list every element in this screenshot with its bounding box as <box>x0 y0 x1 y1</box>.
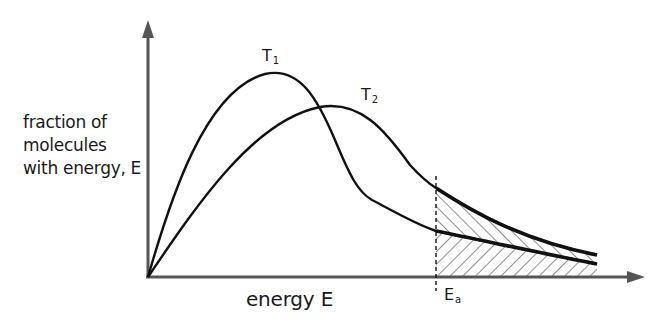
x-axis-label: energy E <box>246 287 333 311</box>
activation-energy-label-sub: a <box>455 294 461 305</box>
curve-label-t2-main: T <box>361 85 371 104</box>
diagram-canvas: fraction of molecules with energy, E ene… <box>0 0 660 331</box>
curve-label-t1: T1 <box>262 46 279 66</box>
activation-energy-label: Ea <box>444 285 461 305</box>
curve-label-t1-sub: 1 <box>273 55 279 66</box>
y-axis-label: fraction of molecules with energy, E <box>23 111 141 180</box>
y-axis-label-line-2: molecules <box>23 134 141 157</box>
curve-label-t2: T2 <box>361 85 378 105</box>
curve-label-t1-main: T <box>262 46 272 65</box>
y-axis-label-line-3: with energy, E <box>23 157 141 180</box>
y-axis-label-line-1: fraction of <box>23 111 141 134</box>
y-axis-arrowhead-icon <box>142 20 154 38</box>
activation-energy-label-main: E <box>444 285 454 304</box>
x-axis-arrowhead-icon <box>627 271 645 283</box>
curve-label-t2-sub: 2 <box>372 94 378 105</box>
